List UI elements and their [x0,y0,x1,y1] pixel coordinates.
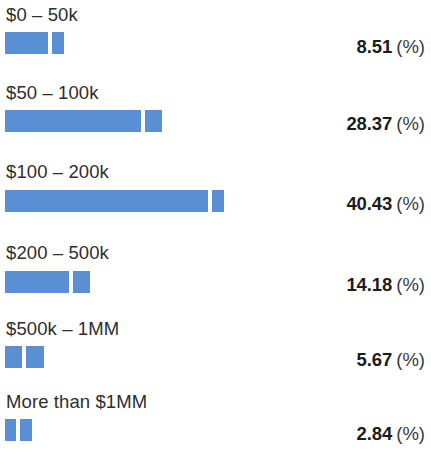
bar [5,32,64,54]
value-number: 2.84 [357,423,393,444]
value-unit: (%) [396,423,425,444]
value-unit: (%) [396,349,425,370]
value-number: 28.37 [346,113,392,134]
value-label: 28.37(%) [346,113,425,135]
category-label: $100 – 200k [6,161,109,183]
bar-segment-tip [20,419,32,441]
bar-segment-tip [52,32,64,54]
bar-segment-main [5,110,143,132]
value-unit: (%) [396,113,425,134]
value-label: 5.67(%) [357,349,425,371]
value-label: 40.43(%) [346,193,425,215]
value-unit: (%) [396,274,425,295]
bar-segment-tip [212,190,224,212]
bar [5,190,224,212]
bar [5,110,162,132]
value-unit: (%) [396,36,425,57]
bar [5,271,90,293]
value-unit: (%) [396,193,425,214]
category-label: $200 – 500k [6,242,109,264]
bar-segment-tip [73,271,90,293]
bar-segment-main [5,32,50,54]
value-label: 14.18(%) [346,274,425,296]
bar-segment-main [5,419,18,441]
value-number: 5.67 [357,349,393,370]
bar-segment-main [5,346,24,368]
category-label: $500k – 1MM [6,318,119,340]
value-label: 2.84(%) [357,423,425,445]
value-number: 40.43 [346,193,392,214]
bar-segment-main [5,271,71,293]
bar [5,346,44,368]
category-label: More than $1MM [6,391,147,413]
category-label: $50 – 100k [6,82,99,104]
category-label: $0 – 50k [6,4,78,26]
bar-segment-main [5,190,210,212]
bar-segment-tip [26,346,44,368]
value-label: 8.51(%) [357,36,425,58]
income-distribution-bar-chart: $0 – 50k 8.51(%) $50 – 100k 28.37(%) $10… [0,0,431,455]
value-number: 14.18 [346,274,392,295]
bar-segment-tip [145,110,162,132]
bar [5,419,32,441]
value-number: 8.51 [357,36,393,57]
